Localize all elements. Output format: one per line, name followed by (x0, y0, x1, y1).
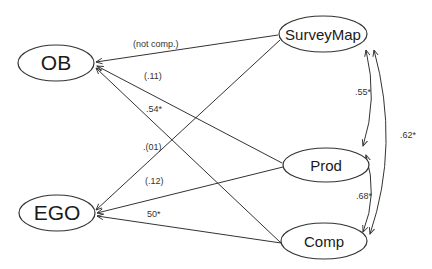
node-prod: Prod (283, 148, 369, 182)
node-surveymap-label: SurveyMap (285, 26, 361, 43)
coef-prod-ob: (.11) (144, 71, 162, 81)
node-ob-label: OB (41, 51, 71, 74)
coef-surveymap-prod: .55* (355, 87, 372, 97)
coef-prod-ego: (.12) (145, 176, 164, 186)
path-diagram: (not comp.) (.11) .54* .(01) (.12) 50* .… (0, 0, 432, 269)
coef-comp-ob: .54* (146, 104, 163, 114)
path-comp-ob (96, 68, 281, 243)
coef-surveymap-ob: (not comp.) (133, 39, 179, 49)
node-prod-label: Prod (310, 157, 342, 174)
correlation-surveymap-comp (370, 50, 386, 234)
path-prod-ob (97, 66, 282, 163)
correlation-surveymap-prod (363, 50, 371, 146)
path-surveymap-ego (96, 40, 280, 210)
node-ego: EGO (19, 195, 95, 231)
coef-surveymap-comp: .62* (400, 130, 417, 140)
node-ob: OB (18, 45, 94, 81)
coef-comp-ego: 50* (147, 209, 161, 219)
node-comp: Comp (281, 223, 367, 259)
node-ego-label: EGO (34, 201, 81, 224)
path-comp-ego (97, 216, 281, 243)
node-comp-label: Comp (304, 233, 344, 250)
coef-surveymap-ego: .(01) (143, 142, 162, 152)
path-prod-ego (97, 167, 283, 213)
node-surveymap: SurveyMap (279, 16, 367, 52)
coef-prod-comp: .68* (356, 191, 373, 201)
path-surveymap-ob (96, 35, 278, 62)
